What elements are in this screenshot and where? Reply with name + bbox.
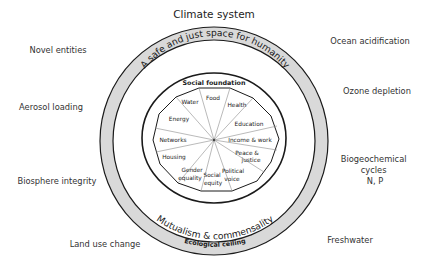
boundary-ozone-depletion: Ozone depletion: [343, 86, 411, 96]
sector-health: Health: [227, 102, 246, 108]
boundary-biosphere-integrity: Biosphere integrity: [17, 176, 96, 186]
center-dot: [213, 139, 215, 141]
boundary-ocean-acidification: Ocean acidification: [330, 36, 409, 46]
sector-energy: Energy: [169, 116, 190, 123]
social-foundation-title: Social foundation: [182, 79, 245, 87]
climate-system-label: Climate system: [173, 8, 255, 20]
sector-water: Water: [181, 99, 199, 105]
boundary-freshwater: Freshwater: [327, 235, 373, 245]
boundary-aerosol-loading: Aerosol loading: [19, 102, 83, 112]
sector-networks: Networks: [159, 137, 186, 143]
planetary-boundaries-right: Ocean acidification Ozone depletion Biog…: [327, 36, 411, 245]
doughnut-diagram: Climate system A safe and just space for…: [0, 0, 427, 263]
boundary-land-use-change: Land use change: [70, 239, 141, 249]
safe-just-space-label: A safe and just space for humanity: [138, 27, 293, 71]
sector-housing: Housing: [162, 154, 186, 161]
boundary-biogeochemical-cycles: Biogeochemical cycles N, P: [341, 154, 409, 186]
sector-income-work: Income & work: [228, 137, 272, 143]
boundary-novel-entities: Novel entities: [29, 45, 86, 55]
sector-social-equity: Social equity: [203, 172, 222, 187]
sector-education: Education: [235, 121, 264, 127]
sector-food: Food: [206, 95, 220, 101]
sector-gender-equality: Gender equality: [178, 167, 204, 182]
